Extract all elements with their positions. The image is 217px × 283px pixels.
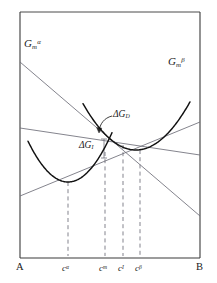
annotation-delta-g-i: ΔGI (79, 141, 94, 151)
gibbs-energy-curves (28, 102, 190, 182)
axis-endpoint-b: B (196, 262, 203, 273)
curve-alpha-sup: α (37, 38, 41, 45)
tick-label-c-beta: cβ (135, 264, 142, 273)
parallel-tangent-upper-line (20, 128, 200, 155)
curve-alpha-symbol: G (24, 37, 32, 49)
delta-gd-symbol: ΔG (113, 109, 125, 119)
axis-endpoint-a: A (16, 262, 24, 273)
tick-c-beta-sup: β (139, 264, 142, 270)
curve-label-g-m-beta: Gmβ (168, 56, 185, 68)
curve-label-g-m-alpha: Gmα (24, 38, 41, 50)
delta-gd-sub: D (126, 113, 130, 119)
free-energy-diagram: Gmα Gmβ ΔGD ΔGI A B cα cm cI cβ (0, 0, 217, 283)
delta-gi-sub: I (92, 144, 94, 150)
tick-c-m-sup: m (103, 264, 107, 270)
delta-gi-symbol: ΔG (79, 140, 91, 150)
plot-frame (20, 12, 200, 258)
annotation-delta-g-d: ΔGD (113, 110, 130, 120)
tick-c-I-sup: I (122, 264, 124, 270)
curve-g-m-beta (83, 102, 190, 150)
delta-gd-leader (97, 116, 112, 133)
tick-label-c-alpha: cα (62, 264, 69, 273)
tick-c-alpha-sup: α (66, 264, 69, 270)
common-tangent-line (20, 122, 200, 196)
tick-label-c-m: cm (99, 264, 107, 273)
curve-beta-sup: β (181, 56, 184, 63)
curve-beta-symbol: G (168, 55, 176, 67)
tick-label-c-I: cI (118, 264, 124, 273)
